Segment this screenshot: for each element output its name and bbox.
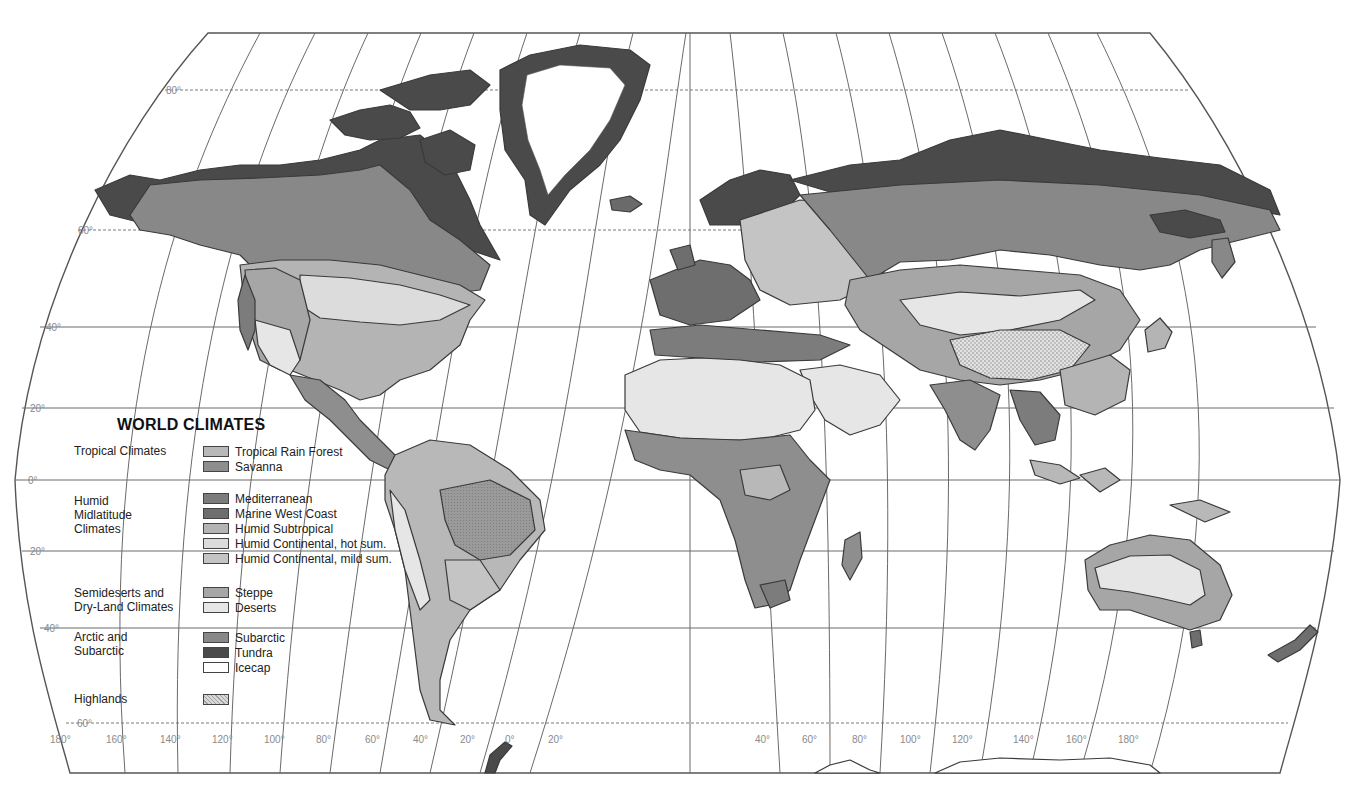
swatch-marine-west-coast (203, 508, 229, 519)
group-label-arctic: Arctic and Subarctic (74, 630, 127, 658)
lat-label-40s: 40° (44, 623, 59, 634)
lat-label-60s: 60° (77, 718, 92, 729)
lat-label-80n: 80° (166, 85, 181, 96)
swatch-tundra (203, 647, 229, 658)
svg-text:180°: 180° (1118, 734, 1139, 745)
group-label-humid-midlatitude: Humid Midlatitude Climates (74, 494, 132, 536)
svg-text:20°: 20° (460, 734, 475, 745)
legend-item-humid-subtropical: Humid Subtropical (203, 522, 333, 535)
svg-text:120°: 120° (212, 734, 233, 745)
legend-item-highlands (203, 693, 235, 706)
group-label-highlands: Highlands (74, 692, 127, 706)
swatch-humid-continental-hot (203, 538, 229, 549)
svg-text:80°: 80° (316, 734, 331, 745)
swatch-mediterranean (203, 493, 229, 504)
svg-text:160°: 160° (1066, 734, 1087, 745)
lat-label-20n: 20° (30, 403, 45, 414)
legend-item-icecap: Icecap (203, 661, 270, 674)
svg-text:120°: 120° (952, 734, 973, 745)
svg-text:40°: 40° (755, 734, 770, 745)
swatch-subarctic (203, 632, 229, 643)
longitude-labels: 180° 160° 140° 120° 100° 80° 60° 40° 20°… (50, 734, 1139, 745)
svg-text:140°: 140° (1013, 734, 1034, 745)
swatch-deserts (203, 602, 229, 613)
swatch-humid-subtropical (203, 523, 229, 534)
group-label-tropical: Tropical Climates (74, 444, 166, 458)
svg-text:180°: 180° (50, 734, 71, 745)
legend-title: WORLD CLIMATES (117, 416, 265, 434)
svg-text:40°: 40° (413, 734, 428, 745)
world-climate-map: 80° 60° 40° 20° 0° 20° 40° 60° 180° 160°… (0, 0, 1353, 798)
landmasses (95, 45, 1318, 773)
svg-text:160°: 160° (106, 734, 127, 745)
legend-item-tropical-rain-forest: Tropical Rain Forest (203, 445, 343, 458)
svg-text:60°: 60° (365, 734, 380, 745)
svg-text:60°: 60° (802, 734, 817, 745)
legend-item-savanna: Savanna (203, 460, 282, 473)
lat-label-20s: 20° (30, 546, 45, 557)
swatch-steppe (203, 587, 229, 598)
legend-item-humid-continental-mild: Humid Continental, mild sum. (203, 552, 392, 565)
svg-text:140°: 140° (160, 734, 181, 745)
svg-text:20°: 20° (548, 734, 563, 745)
legend-item-subarctic: Subarctic (203, 631, 285, 644)
lat-label-60n: 60° (78, 225, 93, 236)
group-label-semideserts: Semideserts and Dry-Land Climates (74, 586, 173, 614)
swatch-tropical-rain-forest (203, 446, 229, 457)
legend-item-mediterranean: Mediterranean (203, 492, 312, 505)
svg-text:100°: 100° (900, 734, 921, 745)
swatch-humid-continental-mild (203, 553, 229, 564)
legend-item-deserts: Deserts (203, 601, 276, 614)
legend-item-humid-continental-hot: Humid Continental, hot sum. (203, 537, 386, 550)
legend-item-tundra: Tundra (203, 646, 273, 659)
legend-item-steppe: Steppe (203, 586, 273, 599)
lat-label-40n: 40° (46, 322, 61, 333)
svg-text:100°: 100° (264, 734, 285, 745)
legend-item-marine-west-coast: Marine West Coast (203, 507, 337, 520)
swatch-highlands (203, 694, 229, 705)
lat-label-0: 0° (28, 475, 38, 486)
swatch-icecap (203, 662, 229, 673)
swatch-savanna (203, 461, 229, 472)
svg-text:80°: 80° (852, 734, 867, 745)
